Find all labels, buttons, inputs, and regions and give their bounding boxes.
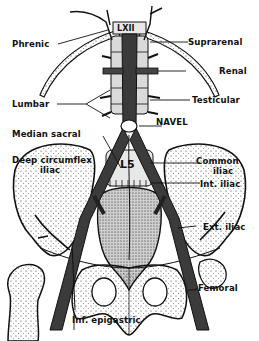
label-testicular: Testicular xyxy=(192,96,240,105)
label-deep-circumflex-iliac-line1: Deep circumflex xyxy=(12,156,92,165)
label-phrenic: Phrenic xyxy=(12,40,49,49)
aorta-branches-diagram: NAVEL Phrenic Suprarenal Renal Lumbar Te… xyxy=(0,0,259,341)
label-int-iliac: Int. iliac xyxy=(200,180,240,189)
label-deep-circumflex-iliac-line2: iliac xyxy=(40,166,60,175)
label-renal: Renal xyxy=(219,67,247,76)
label-inf-epigastric: Inf. epigastric xyxy=(72,316,141,325)
label-lumbar: Lumbar xyxy=(12,100,49,109)
label-common-iliac-line1: Common xyxy=(196,157,239,166)
label-ext-iliac: Ext. iliac xyxy=(203,223,246,232)
vertebra-label-l5: L5 xyxy=(120,160,135,169)
label-femoral: Femoral xyxy=(198,284,238,293)
vertebra-label-lxii: LXII xyxy=(117,24,135,33)
label-navel: NAVEL xyxy=(156,118,188,127)
label-suprarenal: Suprarenal xyxy=(188,38,242,47)
label-median-sacral: Median sacral xyxy=(12,130,81,139)
label-common-iliac-line2: iliac xyxy=(213,167,233,176)
